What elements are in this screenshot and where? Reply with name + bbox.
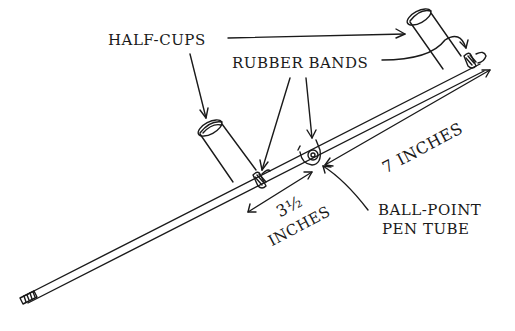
label-pen-tube: PEN TUBE	[382, 222, 470, 237]
label-rubber-bands: RUBBER BANDS	[232, 56, 368, 71]
ball-point-pen-tube	[298, 140, 320, 165]
ball-point-arrow	[323, 166, 368, 210]
stick	[20, 64, 484, 304]
rubber-band-right	[464, 52, 486, 68]
half-cup-left	[196, 117, 256, 182]
label-half-cups: HALF-CUPS	[108, 33, 206, 48]
diagram-drawing	[0, 0, 515, 331]
label-ball-point: BALL-POINT	[378, 203, 481, 218]
half-cups-arrows	[190, 29, 405, 118]
diagram-canvas: HALF-CUPS RUBBER BANDS 7 INCHES 3½ INCHE…	[0, 0, 515, 331]
